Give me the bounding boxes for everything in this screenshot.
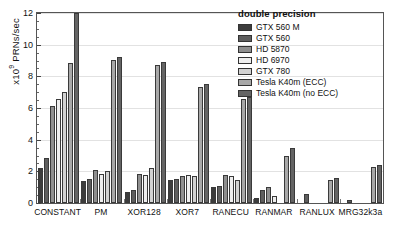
bar [198, 87, 203, 203]
bar [284, 156, 289, 204]
bar [328, 180, 333, 203]
bar [241, 99, 246, 203]
y-axis-title: x109 PRNs/sec [8, 18, 21, 85]
bar [105, 171, 110, 203]
legend-entry: Tesla K40m (ECC) [238, 77, 338, 88]
y-axis-tick-label: 8 [28, 72, 33, 81]
bar [117, 57, 122, 203]
legend-label: GTX 780 [256, 67, 290, 76]
legend-entry: GTX 780 [238, 66, 338, 77]
x-axis-label: MRG32k3a [338, 207, 382, 217]
legend-swatch [238, 79, 252, 86]
bar-group [340, 13, 383, 203]
x-axis-tick [124, 199, 125, 203]
x-axis-tick [210, 199, 211, 203]
x-axis-tick [340, 199, 341, 203]
bar [377, 165, 382, 203]
bar [192, 176, 197, 203]
bar [149, 168, 154, 203]
bar [161, 62, 166, 203]
legend-entry: GTX 560 M [238, 22, 338, 33]
legend-entry: GTX 560 [238, 33, 338, 44]
bar [125, 192, 130, 203]
bar [217, 186, 222, 203]
x-axis-label: XOR128 [128, 207, 161, 217]
legend-entry: Tesla K40m (no ECC) [238, 88, 338, 99]
bar [143, 175, 148, 204]
legend-label: GTX 560 [256, 34, 290, 43]
y-axis-tick-label: 0 [28, 199, 33, 208]
bar [180, 176, 185, 203]
bar [137, 174, 142, 203]
bar-group [124, 13, 167, 203]
legend-entry: HD 5870 [238, 44, 338, 55]
y-axis-tick-label: 4 [28, 135, 33, 144]
bar [254, 198, 259, 203]
y-axis-title-text: x109 PRNs/sec [10, 18, 21, 85]
bar [93, 170, 98, 203]
y-axis-tick-label: 2 [28, 167, 33, 176]
bar [186, 175, 191, 203]
bar [168, 180, 173, 203]
x-axis-label: PM [94, 207, 107, 217]
bar [247, 97, 252, 203]
legend-swatch [238, 46, 252, 53]
legend: double precision GTX 560 MGTX 560HD 5870… [238, 8, 338, 99]
legend-entries: GTX 560 MGTX 560HD 5870HD 6970GTX 780Tes… [238, 22, 338, 99]
bar [50, 106, 55, 203]
x-axis-label: CONSTANT [34, 207, 81, 217]
y-axis-tick-label: 10 [23, 40, 33, 49]
legend-title: double precision [238, 8, 338, 19]
bar [371, 167, 376, 203]
legend-label: Tesla K40m (no ECC) [256, 89, 338, 98]
legend-entry: HD 6970 [238, 55, 338, 66]
bar [266, 187, 271, 203]
bar [229, 176, 234, 203]
bar [290, 148, 295, 203]
bar [131, 190, 136, 203]
legend-label: GTX 560 M [256, 23, 299, 32]
bar [68, 63, 73, 203]
y-axis-tick-label: 6 [28, 104, 33, 113]
bar [204, 84, 209, 203]
legend-label: Tesla K40m (ECC) [256, 78, 326, 87]
x-axis-tick [253, 199, 254, 203]
bar [38, 168, 43, 203]
bar [304, 194, 309, 203]
x-axis-label: RANMAR [255, 207, 292, 217]
x-axis-label: RANLUX [300, 207, 335, 217]
bar [334, 178, 339, 203]
x-axis-tick [297, 199, 298, 203]
legend-swatch [238, 35, 252, 42]
x-axis-label: XOR7 [176, 207, 200, 217]
bar-group [167, 13, 210, 203]
bar [74, 13, 79, 203]
bar [99, 174, 104, 203]
bar [81, 181, 86, 203]
legend-swatch [238, 24, 252, 31]
x-axis-tick [167, 199, 168, 203]
bar [235, 180, 240, 203]
bar [272, 196, 277, 203]
bar [62, 92, 67, 203]
bar [44, 158, 49, 203]
bar [211, 187, 216, 203]
bar-group [80, 13, 123, 203]
legend-swatch [238, 68, 252, 75]
bar [260, 190, 265, 203]
legend-swatch [238, 57, 252, 64]
x-axis-label: RANECU [212, 207, 249, 217]
bar [111, 60, 116, 203]
bar-group [37, 13, 80, 203]
bar [174, 179, 179, 203]
legend-label: HD 5870 [256, 45, 290, 54]
legend-swatch [238, 90, 252, 97]
bar [223, 175, 228, 204]
legend-label: HD 6970 [256, 56, 290, 65]
bar [347, 200, 352, 203]
bar [155, 65, 160, 203]
y-axis-tick [37, 203, 41, 204]
bar-chart: x109 PRNs/sec 024681012 CONSTANTPMXOR128… [0, 0, 400, 245]
bar [87, 179, 92, 203]
bar [56, 99, 61, 204]
